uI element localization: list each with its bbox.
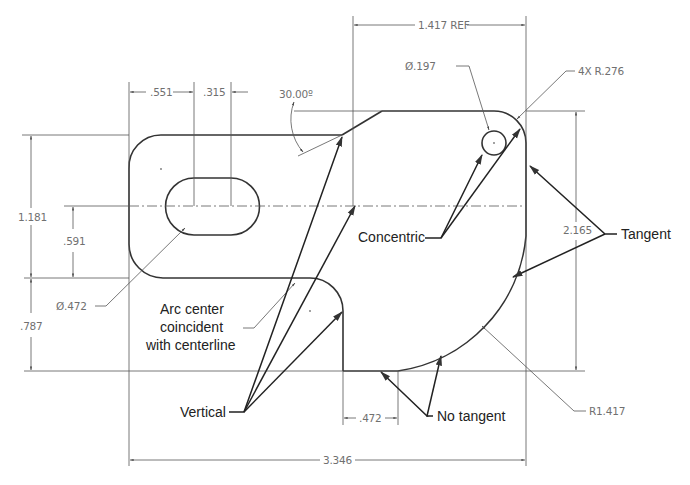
callout-leaders [229, 129, 617, 416]
callout-vertical: Vertical [180, 404, 226, 420]
slot [166, 178, 260, 235]
dim-1181: 1.181 [18, 211, 47, 223]
extension-lines [22, 16, 585, 466]
dim-3346: 3.346 [323, 454, 353, 466]
dim-1417-ref: 1.417 REF [418, 19, 470, 31]
callout-arc-center-3: with centerline [145, 337, 236, 353]
dim-r1417: R1.417 [589, 405, 625, 417]
dim-slot-diameter: Ø.472 [56, 300, 87, 312]
dim-angle: 30.00º [279, 88, 313, 100]
callout-concentric: Concentric [358, 229, 425, 245]
dim-315: .315 [203, 86, 226, 98]
dim-472-bottom: .472 [359, 412, 382, 424]
callout-arc-center-1: Arc center [160, 301, 224, 317]
callout-no-tangent: No tangent [437, 408, 506, 424]
dim-corner-radius: 4X R.276 [578, 65, 624, 77]
dim-hole-diameter: Ø.197 [405, 60, 436, 72]
dim-2165: 2.165 [563, 224, 592, 236]
dim-551: .551 [150, 86, 173, 98]
sketch-drawing: 1.417 REF .551 .315 30.00º Ø.197 4X R.27… [0, 0, 690, 485]
dim-787: .787 [20, 320, 43, 332]
callout-tangent: Tangent [621, 226, 671, 242]
dim-591: .591 [63, 235, 86, 247]
callout-arc-center-2: coincident [160, 319, 223, 335]
